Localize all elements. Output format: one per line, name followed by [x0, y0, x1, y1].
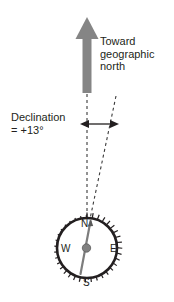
- declination-double-arrow-icon: [80, 120, 119, 128]
- declination-label: Declination = +13°: [11, 111, 65, 136]
- compass-label-east: E: [110, 243, 117, 254]
- declination-diagram: Toward geographic north Declination = +1…: [0, 0, 174, 302]
- compass-label-west: W: [61, 243, 70, 254]
- geographic-north-arrow-icon: [76, 17, 99, 93]
- compass-pivot: [82, 244, 90, 252]
- magnetic-north-dashed-line: [90, 96, 116, 219]
- toward-geographic-north-label: Toward geographic north: [100, 35, 154, 73]
- compass-label-south: S: [83, 277, 90, 288]
- compass-label-north: N: [81, 218, 88, 229]
